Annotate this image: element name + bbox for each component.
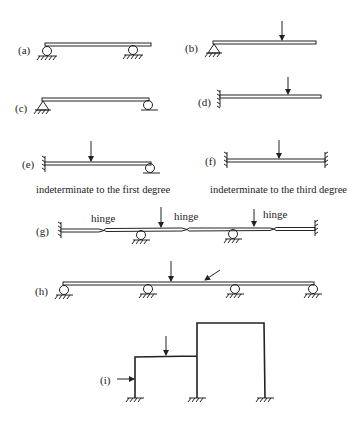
- panel-a-label: (a): [18, 44, 31, 57]
- fixed-support-icon: [256, 398, 274, 402]
- panel-e-caption: indeterminate to the first degree: [36, 184, 170, 195]
- panel-a: (a): [18, 43, 151, 60]
- fixed-support-icon: [325, 152, 328, 168]
- panel-e: (e) indeterminate to the first degree: [22, 141, 170, 195]
- fixed-support-icon: [188, 398, 206, 402]
- roller-support-icon: [304, 285, 322, 299]
- beam: [213, 41, 316, 44]
- panel-i: (i): [100, 323, 274, 402]
- roller-support-icon: [55, 286, 73, 300]
- fixed-support-icon: [315, 220, 318, 236]
- panel-f-caption: indeterminate to the third degree: [210, 184, 347, 195]
- frame: [135, 323, 265, 398]
- hinge-label: hinge: [263, 208, 288, 220]
- panel-d-label: (d): [198, 96, 211, 109]
- roller-support-icon: [132, 231, 150, 245]
- panel-h: (h): [35, 261, 322, 299]
- panel-c-label: (c): [15, 102, 28, 115]
- panel-c: (c): [15, 98, 158, 115]
- roller-support-icon: [37, 47, 57, 61]
- fixed-support-icon: [217, 90, 220, 108]
- panel-i-label: (i): [100, 374, 111, 387]
- beam: [220, 95, 321, 98]
- structural-figure: (a) (b) (c): [0, 0, 349, 428]
- beam: [42, 98, 149, 101]
- hinged-beam: [61, 228, 315, 233]
- panel-g-label: (g): [36, 225, 49, 238]
- panel-d: (d): [198, 77, 321, 109]
- roller-support-icon: [141, 101, 158, 111]
- panel-g: (g) hinge hinge hinge: [36, 207, 318, 244]
- beam: [63, 282, 314, 285]
- inclined-load-arrow-icon: [205, 270, 220, 280]
- panel-b-label: (b): [185, 42, 198, 55]
- beam: [45, 162, 151, 165]
- roller-support-icon: [123, 46, 143, 60]
- panel-h-label: (h): [35, 285, 48, 298]
- roller-support-icon: [224, 230, 242, 244]
- fixed-support-icon: [126, 398, 144, 402]
- roller-support-icon: [226, 285, 244, 299]
- panel-e-label: (e): [22, 158, 35, 171]
- beam: [227, 159, 325, 162]
- hinge-label: hinge: [91, 212, 116, 224]
- roller-support-icon: [139, 285, 157, 299]
- hinge-label: hinge: [174, 210, 199, 222]
- panel-b: (b): [185, 21, 316, 57]
- panel-f: (f) indeterminate to the third degree: [205, 140, 347, 195]
- pin-support-icon: [34, 101, 51, 114]
- pin-support-icon: [205, 44, 222, 57]
- panel-f-label: (f): [205, 155, 216, 168]
